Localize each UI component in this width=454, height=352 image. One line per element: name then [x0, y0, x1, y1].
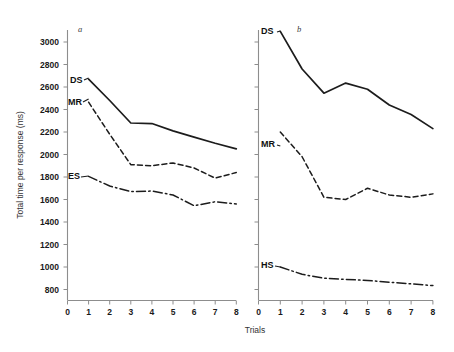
panel-b-series-labels: DS MR HS: [261, 26, 280, 270]
series-line-a-mr: [89, 102, 237, 178]
leader-a-mr: [83, 99, 89, 102]
x-tick-label: 1: [86, 307, 91, 317]
series-label-a-es: ES: [68, 171, 80, 181]
leader-b-hs: [275, 266, 280, 267]
y-tick-label: 2600: [40, 82, 59, 92]
y-axis: 3000 2800 2600 2400 2200 2000 1800 1600 …: [15, 30, 68, 300]
y-tick-label: 1200: [40, 240, 59, 250]
y-tick-marks: [64, 42, 68, 290]
panel-a-label: a: [78, 24, 82, 34]
y-tick-label: 2400: [40, 105, 59, 115]
series-line-a-es: [89, 176, 237, 205]
series-label-a-mr: MR: [68, 97, 82, 107]
series-line-b-hs: [280, 267, 433, 286]
series-label-a-ds: DS: [70, 75, 83, 85]
x-tick-label: 5: [171, 307, 176, 317]
panel-a: a 0 1 2 3 4 5 6 7 8: [65, 24, 239, 317]
x-tick-label: 8: [234, 307, 239, 317]
panel-a-x-tick-labels: 0 1 2 3 4 5 6 7 8: [65, 307, 239, 317]
x-tick-label: 6: [387, 307, 392, 317]
x-tick-label: 7: [213, 307, 218, 317]
x-tick-label: 7: [409, 307, 414, 317]
series-line-b-ds: [280, 31, 433, 128]
x-tick-label: 0: [256, 307, 261, 317]
y-tick-label: 800: [45, 285, 59, 295]
series-label-b-mr: MR: [261, 139, 275, 149]
y-tick-label: 2000: [40, 150, 59, 160]
panel-b: b 0: [255, 24, 436, 317]
panel-b-label: b: [297, 24, 301, 34]
y-axis-title: Total time per response (ms): [15, 111, 25, 219]
panel-b-x-tick-marks: [259, 301, 433, 305]
x-tick-label: 3: [128, 307, 133, 317]
panel-b-y-tick-marks: [255, 42, 259, 290]
panel-b-x-tick-labels: 0 1 2 3 4 5 6 7 8: [256, 307, 435, 317]
y-tick-label: 1600: [40, 195, 59, 205]
leader-a-es: [81, 176, 89, 177]
y-tick-label: 3000: [40, 37, 59, 47]
x-tick-label: 2: [107, 307, 112, 317]
x-tick-label: 8: [431, 307, 436, 317]
x-tick-label: 5: [365, 307, 370, 317]
x-tick-label: 0: [65, 307, 70, 317]
y-tick-label: 1400: [40, 217, 59, 227]
x-tick-label: 3: [322, 307, 327, 317]
y-tick-label: 1800: [40, 172, 59, 182]
series-label-b-ds: DS: [261, 26, 274, 36]
series-line-a-ds: [89, 79, 237, 149]
panel-b-series: [280, 31, 433, 285]
series-label-b-hs: HS: [261, 260, 274, 270]
x-tick-label: 2: [300, 307, 305, 317]
x-tick-label: 6: [192, 307, 197, 317]
y-tick-label: 1000: [40, 262, 59, 272]
x-tick-label: 4: [150, 307, 155, 317]
x-tick-label: 4: [343, 307, 348, 317]
y-tick-label: 2800: [40, 60, 59, 70]
x-tick-label: 1: [278, 307, 283, 317]
panel-a-series: [89, 79, 237, 206]
leader-b-mr: [277, 145, 280, 146]
series-line-b-mr: [280, 132, 433, 200]
x-axis-title: Trials: [245, 325, 265, 335]
panel-a-series-labels: DS MR ES: [68, 75, 89, 181]
y-tick-label: 2200: [40, 127, 59, 137]
y-tick-labels: 3000 2800 2600 2400 2200 2000 1800 1600 …: [40, 37, 59, 295]
line-chart-figure: 3000 2800 2600 2400 2200 2000 1800 1600 …: [0, 0, 454, 352]
panel-a-x-tick-marks: [68, 301, 237, 305]
